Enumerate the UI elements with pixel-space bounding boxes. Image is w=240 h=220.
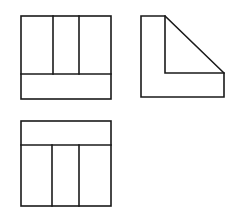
side-view bbox=[141, 16, 224, 97]
side-view-outline bbox=[141, 16, 224, 97]
front-view bbox=[21, 16, 111, 99]
top-view-outline bbox=[21, 121, 111, 206]
front-view-outline bbox=[21, 16, 111, 99]
diagram-svg bbox=[0, 0, 240, 220]
orthographic-diagram bbox=[0, 0, 240, 220]
top-view bbox=[21, 121, 111, 206]
